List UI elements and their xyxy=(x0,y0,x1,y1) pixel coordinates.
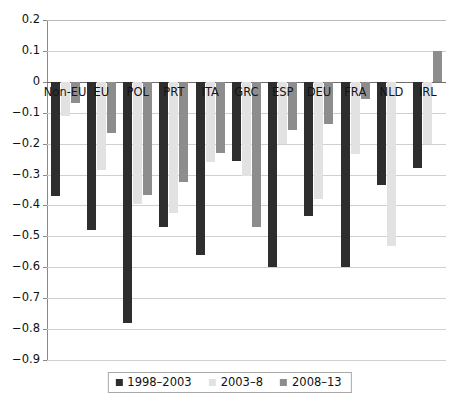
bar xyxy=(123,82,132,323)
legend-swatch-icon xyxy=(280,379,287,386)
bar-slot xyxy=(413,20,422,360)
bar-group: Non-EU xyxy=(47,20,83,360)
bar-slot xyxy=(133,20,142,360)
bar-slot xyxy=(179,20,188,360)
bar-slot xyxy=(51,20,60,360)
legend-item-2: 2008–13 xyxy=(280,377,342,389)
bar xyxy=(61,82,70,116)
y-tick-label: −0.9 xyxy=(12,354,40,366)
bar xyxy=(387,82,396,246)
bar xyxy=(361,82,370,99)
bar-slot xyxy=(97,20,106,360)
bar xyxy=(107,82,116,133)
bar-slot xyxy=(288,20,297,360)
bar-slot xyxy=(351,20,360,360)
bar-group: DEU xyxy=(301,20,337,360)
bar-slot xyxy=(242,20,251,360)
bar-slot xyxy=(324,20,333,360)
bar xyxy=(71,82,80,104)
y-tick-label: −0.2 xyxy=(12,138,40,150)
bar xyxy=(143,82,152,195)
bar-group: ITA xyxy=(192,20,228,360)
bar-slot xyxy=(252,20,261,360)
bar xyxy=(169,82,178,213)
bar-slot xyxy=(61,20,70,360)
bar-group: GRC xyxy=(228,20,264,360)
bar-slot xyxy=(377,20,386,360)
y-tick-mark xyxy=(43,360,47,361)
bar-slot xyxy=(387,20,396,360)
legend-label-0: 1998–2003 xyxy=(127,377,191,389)
bar xyxy=(216,82,225,153)
bar xyxy=(423,82,432,144)
bar-group: POL xyxy=(120,20,156,360)
bar-slot xyxy=(169,20,178,360)
y-tick-label: −0.7 xyxy=(12,292,40,304)
bar-slot xyxy=(397,20,406,360)
bar-chart: 0.20.10−0.1−0.2−0.3−0.4−0.5−0.6−0.7−0.8−… xyxy=(0,0,459,405)
bar xyxy=(433,51,442,82)
bar xyxy=(341,82,350,267)
bar xyxy=(278,82,287,144)
legend-label-2: 2008–13 xyxy=(292,377,342,389)
bar-slot xyxy=(433,20,442,360)
bar xyxy=(179,82,188,182)
bar-slot xyxy=(206,20,215,360)
y-tick-label: −0.1 xyxy=(12,107,40,119)
bar-group: EU xyxy=(83,20,119,360)
bar-slot xyxy=(304,20,313,360)
y-tick-label: −0.4 xyxy=(12,200,40,212)
bar xyxy=(324,82,333,124)
legend-swatch-icon xyxy=(115,379,122,386)
bar xyxy=(196,82,205,255)
bar-slot xyxy=(232,20,241,360)
bar xyxy=(159,82,168,227)
y-tick-label: 0.2 xyxy=(22,14,40,26)
bar-slot xyxy=(143,20,152,360)
bar xyxy=(252,82,261,227)
bar-slot xyxy=(361,20,370,360)
bar-group: FRA xyxy=(337,20,373,360)
bar xyxy=(304,82,313,216)
legend-label-1: 2003–8 xyxy=(221,377,263,389)
bar xyxy=(51,82,60,196)
bar-slot xyxy=(268,20,277,360)
bar xyxy=(268,82,277,267)
legend-swatch-icon xyxy=(209,379,216,386)
bar-slot xyxy=(71,20,80,360)
y-tick-label: 0.1 xyxy=(22,45,40,57)
bar-slot xyxy=(423,20,432,360)
bar xyxy=(87,82,96,230)
bar xyxy=(97,82,106,170)
bar xyxy=(288,82,297,130)
bar xyxy=(133,82,142,204)
bar-group: NLD xyxy=(373,20,409,360)
bar-slot xyxy=(278,20,287,360)
y-tick-label: −0.6 xyxy=(12,262,40,274)
bar-groups: Non-EUEUPOLPRTITAGRCESPDEUFRANLDIRL xyxy=(47,20,446,360)
plot-area: 0.20.10−0.1−0.2−0.3−0.4−0.5−0.6−0.7−0.8−… xyxy=(47,20,446,360)
bar-slot xyxy=(196,20,205,360)
bar-group: ESP xyxy=(265,20,301,360)
bar xyxy=(206,82,215,162)
bar xyxy=(377,82,386,186)
bar-group: IRL xyxy=(410,20,446,360)
y-tick-label: 0 xyxy=(33,76,40,88)
gridline xyxy=(47,360,446,361)
bar xyxy=(351,82,360,155)
y-tick-label: −0.5 xyxy=(12,231,40,243)
bar xyxy=(314,82,323,199)
bar xyxy=(413,82,422,169)
bar-slot xyxy=(87,20,96,360)
bar-slot xyxy=(341,20,350,360)
bar-group: PRT xyxy=(156,20,192,360)
bar-slot xyxy=(216,20,225,360)
chart-legend: 1998–2003 2003–8 2008–13 xyxy=(107,372,351,394)
bar-slot xyxy=(123,20,132,360)
bar xyxy=(232,82,241,161)
legend-item-1: 2003–8 xyxy=(209,377,263,389)
bar-slot xyxy=(107,20,116,360)
bar-slot xyxy=(314,20,323,360)
legend-item-0: 1998–2003 xyxy=(115,377,191,389)
y-tick-label: −0.3 xyxy=(12,169,40,181)
